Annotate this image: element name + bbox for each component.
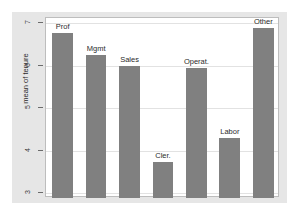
y-tick-mark <box>38 150 43 151</box>
y-tick-mark <box>38 65 43 66</box>
bar-label: Mgmt <box>78 44 115 53</box>
bar-label: Other <box>245 17 282 26</box>
y-tick-label: 5 <box>24 100 32 114</box>
y-tick-mark <box>38 22 43 23</box>
bar-label: Operat. <box>178 57 215 66</box>
bar <box>253 28 274 198</box>
bar-label: Sales <box>111 55 148 64</box>
y-tick-mark <box>38 192 43 193</box>
bar-chart: mean of tenure 76543 ProfMgmtSalesCler.O… <box>0 0 299 215</box>
y-tick-label: 4 <box>24 143 32 157</box>
y-tick-label: 7 <box>24 15 32 29</box>
bar <box>119 66 140 198</box>
y-tick-mark <box>38 107 43 108</box>
gridline <box>46 66 278 67</box>
y-tick-label: 3 <box>24 185 32 199</box>
bar <box>153 162 174 198</box>
bar-label: Prof <box>44 22 81 31</box>
gridline <box>46 108 278 109</box>
bar-label: Labor <box>211 127 248 136</box>
y-tick-label: 6 <box>24 58 32 72</box>
bar <box>186 68 207 198</box>
plot-area: ProfMgmtSalesCler.Operat.LaborOther <box>45 17 279 197</box>
bar-label: Cler. <box>145 151 182 160</box>
bar <box>86 55 107 198</box>
bar <box>219 138 240 198</box>
bar <box>52 33 73 198</box>
